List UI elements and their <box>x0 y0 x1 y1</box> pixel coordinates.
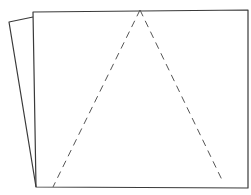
triangle-right-dashed-edge <box>140 10 223 182</box>
diagram-canvas <box>0 0 251 195</box>
triangle-left-dashed-edge <box>53 10 140 187</box>
back-sheet-outline <box>9 17 36 187</box>
